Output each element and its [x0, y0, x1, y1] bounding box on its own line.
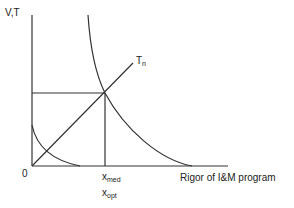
tn-line — [32, 63, 133, 166]
x-med-sub: med — [107, 176, 121, 183]
lower-decreasing-curve — [32, 125, 80, 166]
x-axis-label: Rigor of I&M program — [180, 173, 276, 183]
x-opt-label: xopt — [102, 188, 117, 199]
origin-label: 0 — [22, 169, 28, 179]
diagram-canvas: V,T Tn 0 xmed xopt Rigor of I&M program — [0, 0, 294, 208]
upper-decreasing-curve — [88, 15, 192, 166]
x-opt-sub: opt — [107, 192, 117, 199]
tn-label-sub: n — [142, 60, 146, 67]
x-med-label: xmed — [102, 172, 121, 183]
tn-label: Tn — [136, 56, 146, 67]
y-axis-label: V,T — [5, 8, 20, 18]
